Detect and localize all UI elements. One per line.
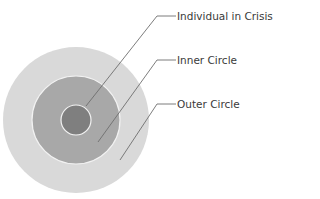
label-outer-circle: Outer Circle — [177, 98, 240, 110]
label-individual-in-crisis: Individual in Crisis — [177, 10, 273, 22]
center-circle — [61, 105, 91, 135]
label-inner-circle: Inner Circle — [177, 54, 237, 66]
